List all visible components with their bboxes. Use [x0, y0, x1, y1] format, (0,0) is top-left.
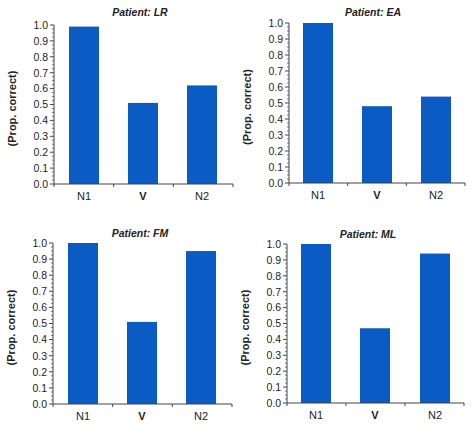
- bar-v: [362, 106, 392, 183]
- y-tick-label: 0.0: [266, 397, 281, 409]
- y-tick-label: 0.7: [268, 65, 283, 77]
- bar-v: [360, 328, 390, 403]
- y-tick-label: 0.8: [32, 269, 47, 281]
- y-tick-label: 0.6: [266, 301, 281, 313]
- bar-n2: [421, 97, 451, 183]
- x-tick-label: N2: [428, 409, 442, 421]
- bar-n1: [301, 244, 331, 403]
- bar-v: [127, 322, 157, 404]
- bar-n2: [420, 254, 450, 403]
- y-tick-label: 0.1: [33, 162, 48, 174]
- y-tick-label: 0.8: [33, 51, 48, 63]
- bar-n1: [303, 23, 333, 183]
- bar-v: [128, 103, 158, 184]
- bar-n2: [186, 251, 216, 404]
- y-tick-label: 0.0: [33, 178, 48, 190]
- y-tick-label: 0.4: [32, 333, 47, 345]
- figure-canvas: Patient: LR0.00.10.20.30.40.50.60.70.80.…: [0, 0, 475, 435]
- chart-panel-lr: Patient: LR0.00.10.20.30.40.50.60.70.80.…: [6, 6, 233, 202]
- y-tick-label: 0.9: [266, 254, 281, 266]
- y-tick-label: 0.4: [268, 113, 283, 125]
- y-tick-label: 0.6: [32, 301, 47, 313]
- y-tick-label: 0.1: [268, 161, 283, 173]
- y-tick-label: 0.8: [268, 49, 283, 61]
- x-tick-label: N1: [311, 189, 325, 201]
- x-tick-label: N1: [77, 190, 91, 202]
- chart-panel-fm: Patient: FM0.00.10.20.30.40.50.60.70.80.…: [5, 227, 232, 422]
- x-tick-label: N2: [195, 190, 209, 202]
- y-tick-label: 0.6: [268, 81, 283, 93]
- y-tick-label: 0.7: [33, 67, 48, 79]
- y-tick-label: 0.7: [266, 286, 281, 298]
- bar-n2: [187, 85, 217, 184]
- chart-title: Patient: LR: [112, 6, 168, 18]
- y-tick-label: 0.2: [266, 365, 281, 377]
- y-tick-label: 0.0: [268, 177, 283, 189]
- x-tick-label: V: [138, 410, 146, 422]
- y-tick-label: 0.8: [266, 270, 281, 282]
- y-tick-label: 1.0: [268, 17, 283, 29]
- chart-title: Patient: ML: [340, 228, 397, 240]
- x-tick-label: N2: [429, 189, 443, 201]
- y-tick-label: 0.5: [32, 317, 47, 329]
- y-axis-label: (Prop. correct): [5, 289, 17, 365]
- y-tick-label: 0.1: [266, 381, 281, 393]
- y-tick-label: 0.7: [32, 285, 47, 297]
- chart-title: Patient: FM: [112, 227, 169, 239]
- y-tick-label: 0.3: [32, 350, 47, 362]
- y-tick-label: 0.9: [33, 35, 48, 47]
- y-tick-label: 0.4: [266, 333, 281, 345]
- y-axis-label: (Prop. correct): [239, 289, 251, 365]
- y-tick-label: 0.9: [268, 33, 283, 45]
- y-tick-label: 0.4: [33, 114, 48, 126]
- y-tick-label: 0.5: [33, 98, 48, 110]
- chart-title: Patient: EA: [345, 6, 401, 18]
- x-tick-label: V: [139, 190, 147, 202]
- y-tick-label: 0.9: [32, 253, 47, 265]
- y-tick-label: 1.0: [32, 237, 47, 249]
- x-tick-label: N1: [76, 410, 90, 422]
- bar-n1: [69, 27, 99, 184]
- y-tick-label: 0.2: [33, 146, 48, 158]
- bar-n1: [68, 243, 98, 404]
- y-tick-label: 0.5: [268, 97, 283, 109]
- x-tick-label: N2: [194, 410, 208, 422]
- y-tick-label: 0.3: [268, 129, 283, 141]
- y-tick-label: 0.1: [32, 382, 47, 394]
- y-tick-label: 0.3: [266, 349, 281, 361]
- y-tick-label: 1.0: [33, 19, 48, 31]
- chart-panel-ea: Patient: EA0.00.10.20.30.40.50.60.70.80.…: [241, 6, 465, 201]
- y-axis-label: (Prop. correct): [241, 69, 253, 145]
- y-tick-label: 1.0: [266, 238, 281, 250]
- y-tick-label: 0.5: [266, 317, 281, 329]
- y-tick-label: 0.3: [33, 130, 48, 142]
- x-tick-label: V: [373, 189, 381, 201]
- x-tick-label: V: [371, 409, 379, 421]
- x-tick-label: N1: [309, 409, 323, 421]
- y-tick-label: 0.2: [32, 366, 47, 378]
- y-tick-label: 0.0: [32, 398, 47, 410]
- y-tick-label: 0.2: [268, 145, 283, 157]
- y-axis-label: (Prop. correct): [6, 70, 18, 146]
- y-tick-label: 0.6: [33, 82, 48, 94]
- chart-panel-ml: Patient: ML0.00.10.20.30.40.50.60.70.80.…: [239, 228, 464, 421]
